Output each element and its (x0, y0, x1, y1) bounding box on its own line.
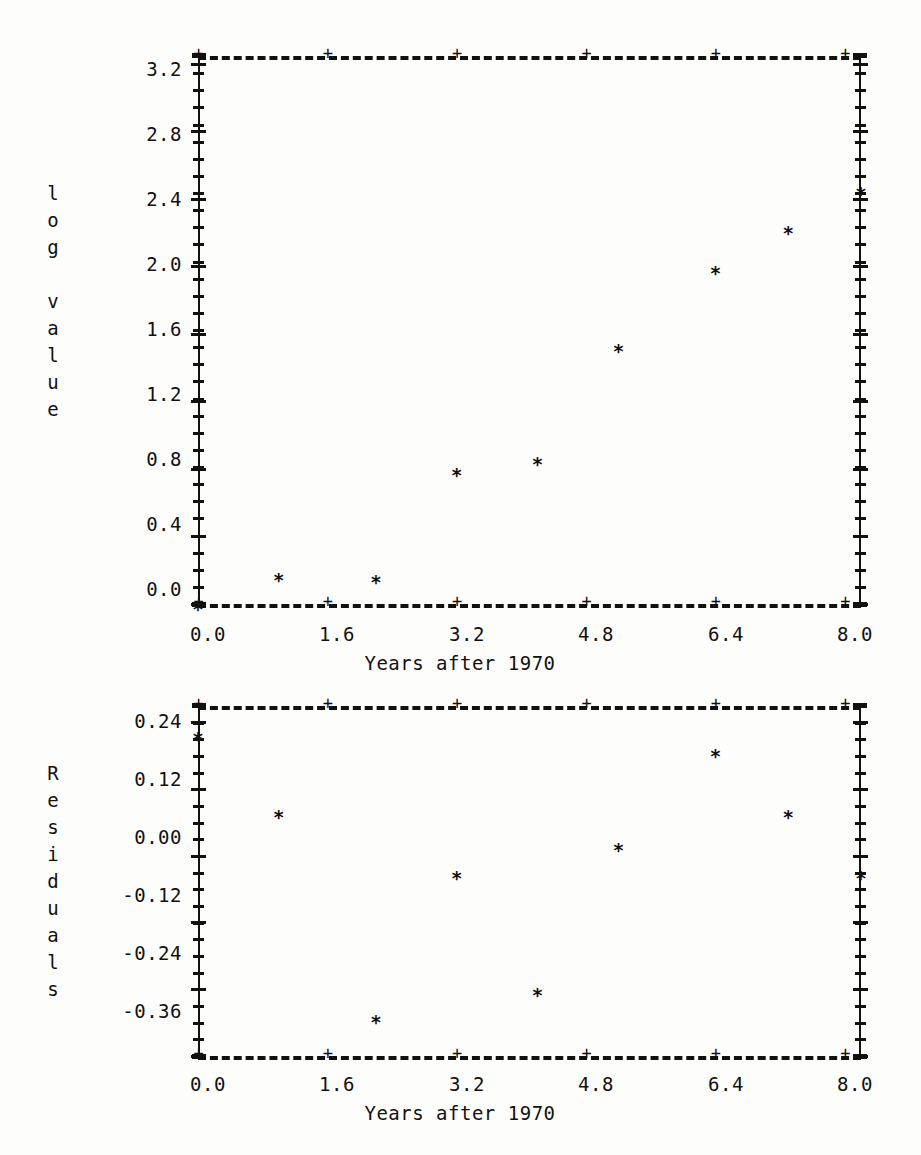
y-tick-label: 0.00 (100, 826, 182, 848)
data-point-marker: * (369, 1012, 383, 1026)
x-tick-label: 4.8 (556, 1073, 636, 1095)
x-tick-label: 0.0 (168, 1073, 248, 1095)
x-axis-title: Years after 1970 (330, 1102, 590, 1124)
data-point-marker: * (272, 807, 286, 821)
y-axis-title-letter: s (42, 976, 64, 1003)
y-tick-label: -0.12 (100, 884, 182, 906)
y-axis-title-letter: i (42, 841, 64, 868)
data-marker-container: ********* (198, 706, 861, 1056)
data-point-marker: * (781, 807, 795, 821)
data-point-marker: * (611, 840, 625, 854)
data-point-marker: * (450, 868, 464, 882)
data-point-marker: * (531, 985, 545, 999)
data-point-marker: * (191, 729, 205, 743)
x-tick-label: 1.6 (297, 1073, 377, 1095)
y-axis-title-letter: e (42, 787, 64, 814)
y-tick-label: 0.12 (100, 768, 182, 790)
y-axis-title-letter: R (42, 760, 64, 787)
y-axis-title-letter: a (42, 922, 64, 949)
data-point-marker: * (854, 868, 868, 882)
y-axis-title-letter: u (42, 895, 64, 922)
y-tick-label: -0.24 (100, 942, 182, 964)
x-tick-label: 6.4 (686, 1073, 766, 1095)
data-point-marker: * (708, 746, 722, 760)
x-tick-label: 8.0 (815, 1073, 895, 1095)
printout-page: l o g v a l u e 3.2 2.8 2.4 2.0 1.6 1.2 … (0, 0, 921, 1155)
y-axis-title-residuals: R e s i d u a l s (42, 760, 64, 1003)
residuals-plot: R e s i d u a l s 0.24 0.12 0.00 -0.12 -… (0, 0, 921, 1155)
y-axis-title-letter: s (42, 814, 64, 841)
y-tick-label: -0.36 (100, 1000, 182, 1022)
y-tick-label: 0.24 (100, 710, 182, 732)
y-axis-title-letter: d (42, 868, 64, 895)
y-axis-title-letter: l (42, 949, 64, 976)
x-axis-line-bottom (198, 1056, 861, 1060)
x-tick-label: 3.2 (427, 1073, 507, 1095)
plot-frame: ********* (198, 706, 861, 1056)
